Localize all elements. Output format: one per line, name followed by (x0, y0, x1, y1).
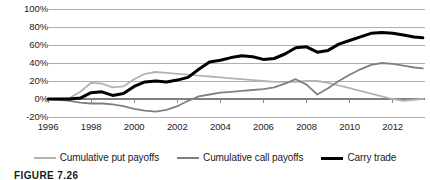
x-axis-tick-label: 2008 (287, 122, 327, 132)
legend-line-swatch (321, 157, 343, 160)
figure-container: 100%80%60%40%20%0%-20% 19961998200020022… (0, 0, 430, 180)
series-line (48, 32, 423, 99)
legend-item-label: Cumulative put payoffs (60, 152, 159, 164)
x-axis-tick-label: 1996 (28, 122, 68, 132)
legend-item: Cumulative put payoffs (34, 152, 159, 164)
y-axis-tick-label: 20% (4, 76, 48, 86)
series-lines-group (48, 32, 423, 111)
x-axis-tick-label: 2012 (373, 122, 413, 132)
x-axis-tick-label: 2010 (330, 122, 370, 132)
x-tickmarks-group (48, 99, 393, 103)
y-axis-tick-label: 80% (4, 22, 48, 32)
legend-item-label: Cumulative call payoffs (203, 152, 303, 164)
y-axis-tick-label: 40% (4, 58, 48, 68)
x-axis-tick-label: 1998 (71, 122, 111, 132)
x-axis-tick-label: 2000 (114, 122, 154, 132)
y-axis-tick-label: 0% (4, 94, 48, 104)
y-axis-tick-label: 100% (4, 4, 48, 14)
x-axis-tick-label: 2004 (200, 122, 240, 132)
x-axis-tick-label: 2006 (243, 122, 283, 132)
legend-line-swatch (177, 157, 199, 159)
legend-item: Carry trade (321, 152, 396, 164)
legend-item: Cumulative call payoffs (177, 152, 303, 164)
legend-item-label: Carry trade (347, 152, 396, 164)
x-axis-tick-label: 2002 (157, 122, 197, 132)
y-axis-tick-label: 60% (4, 40, 48, 50)
gridlines-group (48, 9, 425, 117)
series-line (48, 72, 423, 101)
chart-legend: Cumulative put payoffsCumulative call pa… (0, 150, 430, 166)
series-line (48, 63, 423, 112)
legend-line-swatch (34, 157, 56, 159)
chart-svg (0, 0, 430, 140)
figure-caption: FIGURE 7.26 (14, 170, 78, 180)
chart-plot-area: 100%80%60%40%20%0%-20% 19961998200020022… (0, 0, 430, 140)
